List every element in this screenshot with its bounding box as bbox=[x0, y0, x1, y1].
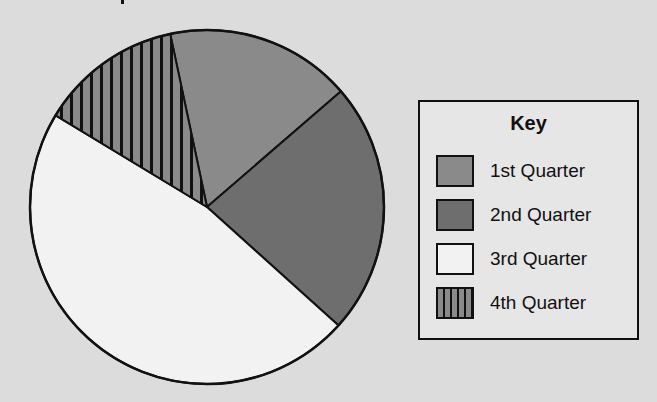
legend-swatch-q3 bbox=[436, 243, 474, 275]
legend-label: 1st Quarter bbox=[490, 160, 585, 182]
legend-title: Key bbox=[420, 112, 637, 135]
pie-chart bbox=[0, 0, 420, 402]
legend-box: Key 1st Quarter 2nd Quarter 3rd Quarter … bbox=[418, 100, 639, 340]
pie-slices bbox=[30, 30, 384, 384]
legend-swatch-q1 bbox=[436, 155, 474, 187]
legend-label: 3rd Quarter bbox=[490, 248, 587, 270]
legend-item-2nd-quarter: 2nd Quarter bbox=[436, 198, 591, 232]
legend-label: 4th Quarter bbox=[490, 292, 586, 314]
legend-item-1st-quarter: 1st Quarter bbox=[436, 154, 585, 188]
legend-item-3rd-quarter: 3rd Quarter bbox=[436, 242, 587, 276]
legend-label: 2nd Quarter bbox=[490, 204, 591, 226]
legend-swatch-q4-striped bbox=[436, 287, 474, 319]
legend-swatch-q2 bbox=[436, 199, 474, 231]
legend-item-4th-quarter: 4th Quarter bbox=[436, 286, 586, 320]
